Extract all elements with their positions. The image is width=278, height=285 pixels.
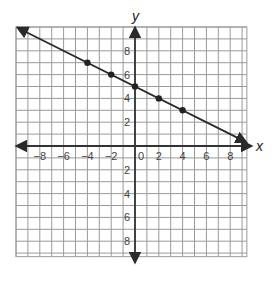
- x-tick-label: 2: [156, 150, 162, 162]
- x-tick-label: −4: [81, 150, 94, 162]
- x-tick-label: 4: [180, 150, 186, 162]
- x-tick-label: −2: [105, 150, 118, 162]
- data-point: [156, 95, 162, 101]
- y-tick-label: 4: [124, 188, 130, 200]
- x-tick-label: 8: [227, 150, 233, 162]
- y-tick-label: 4: [124, 92, 130, 104]
- x-tick-label: −8: [34, 150, 47, 162]
- y-tick-label: 8: [124, 235, 130, 247]
- grid: [16, 27, 247, 257]
- x-tick-label: −6: [57, 150, 70, 162]
- y-tick-label: 2: [124, 116, 130, 128]
- data-point: [132, 83, 138, 89]
- y-tick-label: 6: [124, 211, 130, 223]
- data-point: [84, 60, 90, 66]
- x-tick-label: 6: [203, 150, 209, 162]
- y-axis-label: y: [131, 8, 140, 24]
- data-point: [108, 71, 114, 77]
- data-point: [179, 107, 185, 113]
- x-axis-label: x: [255, 138, 264, 154]
- x-tick-label: 0: [138, 150, 144, 162]
- y-tick-label: 2: [124, 164, 130, 176]
- coordinate-plane: −8−6−4−20246886422468 x y: [0, 0, 278, 285]
- y-tick-label: 8: [124, 45, 130, 57]
- y-tick-label: 6: [124, 69, 130, 81]
